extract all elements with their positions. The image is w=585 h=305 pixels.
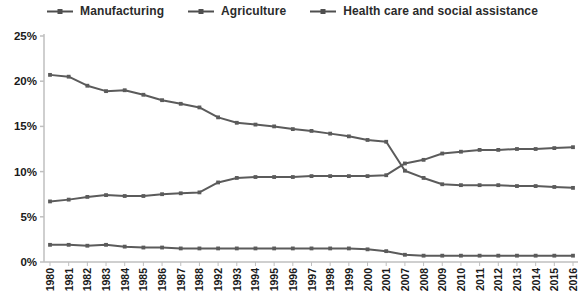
employment-share-line-chart: Manufacturing Agriculture Health care an… bbox=[0, 0, 585, 305]
legend-label-health-care: Health care and social assistance bbox=[343, 4, 538, 18]
x-tick-label: 1999 bbox=[343, 268, 355, 292]
data-point-marker bbox=[85, 195, 89, 199]
data-point-marker bbox=[123, 88, 127, 92]
x-tick-label: 1983 bbox=[100, 268, 112, 292]
data-point-marker bbox=[496, 183, 500, 187]
data-point-marker bbox=[272, 125, 276, 129]
data-point-marker bbox=[104, 89, 108, 93]
data-point-marker bbox=[403, 169, 407, 173]
data-point-marker bbox=[198, 190, 202, 194]
data-point-marker bbox=[571, 145, 575, 149]
x-tick-label: 1994 bbox=[249, 268, 261, 292]
data-point-marker bbox=[478, 148, 482, 152]
y-tick-label: 10% bbox=[14, 166, 37, 178]
data-point-marker bbox=[366, 138, 370, 142]
data-point-marker bbox=[552, 146, 556, 150]
data-point-marker bbox=[179, 191, 183, 195]
data-point-marker bbox=[403, 253, 407, 257]
data-point-marker bbox=[534, 184, 538, 188]
data-point-marker bbox=[496, 148, 500, 152]
y-tick-label: 15% bbox=[14, 120, 37, 132]
data-point-marker bbox=[216, 181, 220, 185]
x-tick-label: 2000 bbox=[362, 268, 374, 292]
x-tick-label: 1992 bbox=[212, 268, 224, 292]
x-tick-label: 1986 bbox=[156, 268, 168, 292]
data-point-marker bbox=[347, 247, 351, 251]
data-point-marker bbox=[291, 247, 295, 251]
x-tick-label: 2014 bbox=[530, 268, 542, 292]
data-point-marker bbox=[422, 176, 426, 180]
data-point-marker bbox=[310, 129, 314, 133]
legend-label-agriculture: Agriculture bbox=[221, 4, 286, 18]
data-point-marker bbox=[216, 247, 220, 251]
data-point-marker bbox=[67, 243, 71, 247]
x-tick-label: 1984 bbox=[119, 268, 131, 292]
x-tick-label: 1997 bbox=[306, 268, 318, 292]
x-tick-label: 2012 bbox=[492, 268, 504, 292]
data-point-marker bbox=[67, 198, 71, 202]
data-point-marker bbox=[254, 123, 258, 127]
data-point-marker bbox=[291, 127, 295, 131]
data-point-marker bbox=[254, 247, 258, 251]
data-point-marker bbox=[534, 254, 538, 258]
data-point-marker bbox=[235, 247, 239, 251]
x-tick-label: 2007 bbox=[399, 268, 411, 292]
data-point-marker bbox=[235, 176, 239, 180]
legend-label-manufacturing: Manufacturing bbox=[80, 4, 164, 18]
data-point-marker bbox=[496, 254, 500, 258]
data-point-marker bbox=[571, 186, 575, 190]
data-point-marker bbox=[179, 102, 183, 106]
legend-line-marker-icon bbox=[188, 7, 214, 16]
data-point-marker bbox=[291, 175, 295, 179]
data-point-marker bbox=[123, 245, 127, 249]
data-point-marker bbox=[179, 247, 183, 251]
x-tick-label: 2011 bbox=[474, 268, 486, 291]
data-point-marker bbox=[328, 247, 332, 251]
data-point-marker bbox=[571, 254, 575, 258]
data-point-marker bbox=[515, 254, 519, 258]
chart-canvas: 0%5%10%15%20%25%198019811982198319841985… bbox=[0, 0, 585, 305]
x-tick-label: 1987 bbox=[175, 268, 187, 292]
data-point-marker bbox=[160, 192, 164, 196]
x-tick-label: 1981 bbox=[63, 268, 75, 292]
data-point-marker bbox=[48, 73, 52, 77]
x-tick-label: 2015 bbox=[548, 268, 560, 292]
x-tick-label: 2013 bbox=[511, 268, 523, 292]
x-tick-label: 1988 bbox=[193, 268, 205, 292]
data-point-marker bbox=[459, 254, 463, 258]
x-tick-label: 1985 bbox=[137, 268, 149, 292]
legend-item-agriculture: Agriculture bbox=[188, 4, 286, 18]
legend-line-marker-icon bbox=[310, 7, 336, 16]
x-tick-label: 1980 bbox=[44, 268, 56, 292]
data-point-marker bbox=[440, 254, 444, 258]
y-tick-label: 0% bbox=[20, 256, 37, 268]
x-tick-label: 1982 bbox=[81, 268, 93, 292]
data-point-marker bbox=[440, 182, 444, 186]
x-tick-label: 2008 bbox=[418, 268, 430, 292]
data-point-marker bbox=[459, 150, 463, 154]
data-point-marker bbox=[85, 84, 89, 88]
chart-legend: Manufacturing Agriculture Health care an… bbox=[0, 4, 585, 18]
data-point-marker bbox=[85, 244, 89, 248]
data-point-marker bbox=[160, 98, 164, 102]
data-point-marker bbox=[160, 246, 164, 250]
data-point-marker bbox=[384, 249, 388, 253]
x-tick-label: 2010 bbox=[455, 268, 467, 292]
x-tick-label: 1993 bbox=[231, 268, 243, 292]
data-point-marker bbox=[384, 173, 388, 177]
data-point-marker bbox=[310, 174, 314, 178]
data-point-marker bbox=[478, 254, 482, 258]
data-point-marker bbox=[48, 200, 52, 204]
data-point-marker bbox=[48, 243, 52, 247]
legend-item-health-care: Health care and social assistance bbox=[310, 4, 538, 18]
data-point-marker bbox=[459, 183, 463, 187]
x-tick-label: 1995 bbox=[268, 268, 280, 292]
y-tick-label: 5% bbox=[20, 211, 37, 223]
x-tick-label: 2001 bbox=[380, 268, 392, 292]
data-point-marker bbox=[141, 93, 145, 97]
data-point-marker bbox=[272, 247, 276, 251]
data-point-marker bbox=[104, 243, 108, 247]
data-point-marker bbox=[478, 183, 482, 187]
data-point-marker bbox=[272, 175, 276, 179]
data-point-marker bbox=[515, 184, 519, 188]
